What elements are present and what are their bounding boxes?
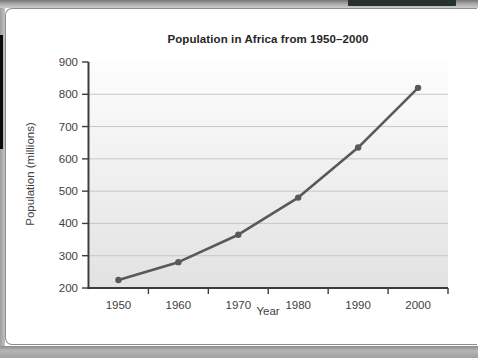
chart-title: Population in Africa from 1950–2000 xyxy=(88,33,448,45)
accent-bar xyxy=(348,0,456,6)
bottom-page-edge-bar xyxy=(0,346,478,358)
scanned-page: Population in Africa from 1950–2000 Popu… xyxy=(0,0,478,358)
x-axis-label: Year xyxy=(88,305,448,317)
left-black-strip xyxy=(0,35,3,149)
chart-card xyxy=(5,8,477,345)
y-axis-label: Population (millions) xyxy=(24,61,36,287)
